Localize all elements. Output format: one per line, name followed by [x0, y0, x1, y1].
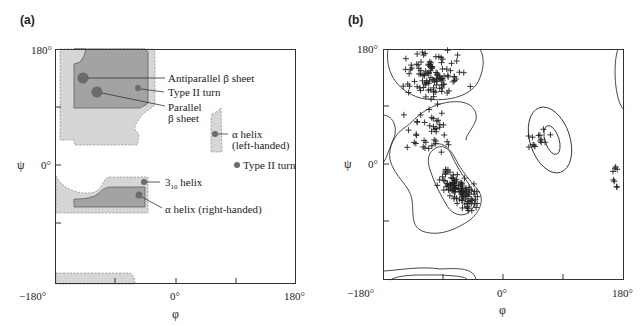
contour-bottom-outer [384, 268, 476, 280]
observed-point [421, 52, 427, 58]
observed-point [441, 132, 447, 138]
observed-point [412, 78, 418, 84]
dot-type2-right [234, 162, 240, 168]
observed-point [455, 52, 461, 58]
observed-point [422, 119, 428, 125]
observed-point [450, 79, 456, 85]
label-alpha-left-2: (left-handed) [232, 139, 290, 152]
observed-point [414, 51, 420, 57]
y-axis-label: ψ [17, 158, 25, 172]
allowed-region-alpha-left [211, 108, 222, 152]
x-tick-180: 180° [612, 287, 633, 299]
observed-point [610, 177, 616, 183]
observed-point [403, 56, 409, 62]
observed-point [531, 142, 537, 148]
panel-a-ramachandran-regions: (a) [0, 0, 322, 325]
x-axis-label: φ [172, 307, 179, 321]
panel-a-plot: Antiparallel β sheet Type II turn Parall… [0, 0, 322, 325]
observed-point [409, 65, 415, 71]
observed-point [437, 177, 443, 183]
observed-point [547, 132, 553, 138]
observed-point [439, 110, 445, 116]
observed-point [403, 66, 409, 72]
label-310-helix: 310 helix [165, 176, 203, 191]
observed-point [417, 85, 423, 91]
observed-point [445, 72, 451, 78]
observed-point [401, 112, 407, 118]
panel-b-plot: 180° 0° ψ −180° 0° 180° φ [322, 0, 644, 325]
dot-alpha-left [212, 131, 218, 137]
observed-point [413, 131, 419, 137]
observed-point [438, 149, 444, 155]
x-tick-0: 0° [170, 290, 180, 302]
observed-point [447, 193, 453, 199]
label-alpha-right: α helix (right-handed) [165, 203, 262, 216]
observed-point [456, 69, 462, 75]
y-axis-label: ψ [344, 157, 352, 171]
observed-point [449, 60, 455, 66]
observed-point [444, 66, 450, 72]
observed-point [422, 50, 428, 56]
observed-points [400, 47, 620, 213]
observed-point [415, 62, 421, 68]
contour-right-edge [615, 49, 624, 110]
x-tick-180: 180° [284, 290, 305, 302]
allowed-region-bottom [56, 273, 135, 284]
x-axis-label: φ [499, 303, 506, 317]
observed-point [406, 127, 412, 133]
contour-alphaL-inner [541, 124, 564, 157]
observed-point [461, 70, 467, 76]
x-tick-neg180: −180° [347, 287, 374, 299]
observed-point [611, 178, 617, 184]
dot-310 [141, 179, 147, 185]
observed-point [426, 145, 432, 151]
observed-point [414, 84, 420, 90]
observed-point [404, 144, 410, 150]
observed-point [408, 62, 414, 68]
dot-alpha-right [136, 192, 143, 199]
observed-point [438, 60, 444, 66]
contour-alphaL-outer [520, 101, 579, 178]
observed-point [441, 177, 447, 183]
observed-point [418, 87, 424, 93]
observed-point [537, 132, 543, 138]
x-tick-0: 0° [497, 287, 507, 299]
observed-point [427, 123, 433, 129]
y-tick-0: 0° [41, 159, 51, 171]
observed-point [542, 139, 548, 145]
observed-point [471, 181, 477, 187]
observed-point [435, 101, 441, 107]
label-type2-right: Type II turn [243, 159, 296, 171]
x-tick-neg180: −180° [19, 290, 46, 302]
observed-point [444, 139, 450, 145]
observed-point [530, 134, 536, 140]
dot-type2-upper [135, 85, 141, 91]
y-tick-0: 0° [368, 158, 378, 170]
label-parallel-2: β sheet [168, 112, 199, 124]
observed-point [526, 133, 532, 139]
label-type2-upper: Type II turn [168, 86, 221, 98]
observed-point [445, 47, 451, 53]
dot-antiparallel [78, 73, 89, 84]
y-tick-180: 180° [31, 44, 52, 56]
observed-point [406, 71, 412, 77]
observed-point [454, 58, 460, 64]
dot-parallel [92, 87, 103, 98]
y-tick-180: 180° [357, 43, 378, 55]
observed-point [614, 184, 620, 190]
panel-b-observed-angles: (b) 180° 0° ψ −180° 0° 180° φ [322, 0, 644, 325]
observed-point [447, 68, 453, 74]
label-antiparallel: Antiparallel β sheet [168, 72, 254, 84]
observed-point [419, 49, 425, 55]
